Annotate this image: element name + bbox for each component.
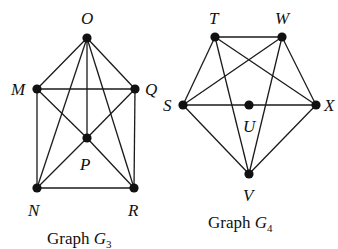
vertex-q bbox=[130, 84, 139, 93]
vertex-m bbox=[32, 84, 41, 93]
vertex-label-n: N bbox=[27, 201, 41, 220]
vertex-label-w: W bbox=[275, 9, 291, 28]
vertex-label-s: S bbox=[163, 96, 172, 115]
edge-o-m bbox=[37, 38, 87, 89]
edge-t-x bbox=[215, 37, 316, 105]
vertex-r bbox=[129, 183, 138, 192]
vertex-label-t: T bbox=[209, 9, 220, 28]
vertex-label-v: V bbox=[243, 186, 256, 205]
graph-g4-caption: Graph G4 bbox=[208, 213, 273, 234]
vertex-p bbox=[82, 133, 91, 142]
vertex-label-x: X bbox=[323, 96, 335, 115]
edge-p-r bbox=[87, 138, 134, 188]
graph-g4: TWSUXV Graph G4 bbox=[163, 9, 335, 234]
vertex-o bbox=[82, 33, 91, 42]
edge-o-q bbox=[87, 38, 135, 89]
edge-s-v bbox=[183, 105, 249, 174]
edge-w-s bbox=[183, 37, 282, 105]
vertex-w bbox=[277, 32, 286, 41]
graph-figure: OMQPNR Graph G3 TWSUXV Graph G4 bbox=[0, 0, 338, 249]
edge-t-s bbox=[183, 37, 215, 105]
vertex-s bbox=[178, 100, 187, 109]
vertex-label-r: R bbox=[127, 201, 139, 220]
vertex-label-q: Q bbox=[145, 80, 157, 99]
edge-m-p bbox=[37, 89, 87, 138]
vertex-v bbox=[244, 169, 253, 178]
vertex-n bbox=[32, 183, 41, 192]
edge-q-r bbox=[134, 89, 135, 188]
vertex-t bbox=[210, 32, 219, 41]
edge-q-p bbox=[87, 89, 135, 138]
vertex-x bbox=[311, 100, 320, 109]
edge-o-r bbox=[87, 38, 134, 188]
vertex-label-u: U bbox=[243, 117, 257, 136]
edge-x-v bbox=[249, 105, 316, 174]
edge-w-x bbox=[282, 37, 316, 105]
vertex-label-m: M bbox=[10, 80, 26, 99]
graph-g3: OMQPNR Graph G3 bbox=[10, 9, 157, 249]
vertex-label-p: P bbox=[79, 155, 90, 174]
vertex-u bbox=[244, 100, 253, 109]
graph-g3-caption: Graph G3 bbox=[47, 229, 112, 249]
vertex-label-o: O bbox=[81, 9, 93, 28]
